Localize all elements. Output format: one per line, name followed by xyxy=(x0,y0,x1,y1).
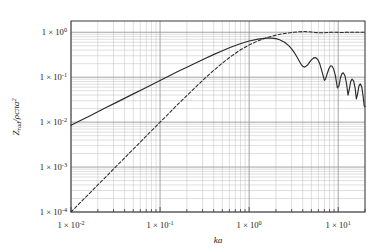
y-axis-tick-labels: 1 × 1001 × 10-11 × 10-21 × 10-31 × 10-4 xyxy=(40,26,67,217)
y-tick-label: 1 × 10-3 xyxy=(40,161,67,172)
y-tick-label: 1 × 10-4 xyxy=(40,206,67,217)
x-axis-title: ka xyxy=(214,235,223,245)
minor-gridlines xyxy=(71,21,365,212)
x-axis-tick-labels: 1 × 10-21 × 10-11 × 1001 × 101 xyxy=(57,219,350,230)
y-tick-label: 1 × 10-1 xyxy=(40,71,67,82)
svg-text:Zrad/ρcπa2: Zrad/ρcπa2 xyxy=(10,98,22,135)
x-tick-label: 1 × 101 xyxy=(326,219,351,230)
x-tick-label: 1 × 10-2 xyxy=(57,219,84,230)
y-axis-title: Zrad/ρcπa2 xyxy=(10,98,22,135)
y-tick-label: 1 × 100 xyxy=(42,26,67,37)
plot-frame xyxy=(71,21,365,212)
y-tick-label: 1 × 10-2 xyxy=(40,116,67,127)
x-tick-label: 1 × 100 xyxy=(237,219,262,230)
radiation-impedance-chart: 1 × 10-21 × 10-11 × 1001 × 101 1 × 1001 … xyxy=(0,0,377,252)
major-gridlines xyxy=(71,21,365,212)
x-axis-tick-marks xyxy=(71,207,365,212)
x-tick-label: 1 × 10-1 xyxy=(146,219,173,230)
figure-root: 1 × 10-21 × 10-11 × 1001 × 101 1 × 1001 … xyxy=(0,0,377,252)
